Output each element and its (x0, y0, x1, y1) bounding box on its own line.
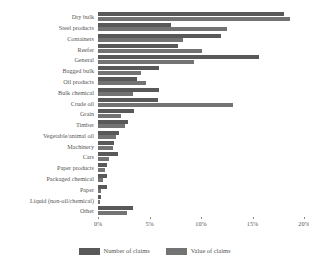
category-label: Oil products (0, 78, 94, 85)
bar-number-of-claims (98, 185, 107, 189)
bar-group (98, 34, 304, 45)
x-tick-label: 20% (298, 220, 309, 228)
category-label: General (0, 56, 94, 63)
x-tick-mark (304, 217, 305, 219)
legend-label: Number of claims (104, 247, 150, 255)
bar-value-of-claims (98, 81, 146, 85)
bar-group (98, 98, 304, 109)
bar-group (98, 120, 304, 131)
category-label: Liquid (non-oil/chemical) (0, 197, 94, 204)
bar-value-of-claims (98, 135, 116, 139)
bar-number-of-claims (98, 98, 158, 102)
bar-number-of-claims (98, 23, 171, 27)
bar-group (98, 66, 304, 77)
bar-number-of-claims (98, 66, 159, 70)
bar-number-of-claims (98, 88, 159, 92)
bar-number-of-claims (98, 174, 107, 178)
x-tick-mark (201, 217, 202, 219)
bar-group (98, 185, 304, 196)
bar-group (98, 109, 304, 120)
category-label: Reefer (0, 46, 94, 53)
bar-group (98, 77, 304, 88)
legend-item[interactable]: Number of claims (79, 247, 150, 255)
bar-value-of-claims (98, 38, 183, 42)
bar-value-of-claims (98, 146, 113, 150)
bar-value-of-claims (98, 49, 202, 53)
bar-group (98, 141, 304, 152)
legend-item[interactable]: Value of claims (166, 247, 231, 255)
bar-value-of-claims (98, 211, 127, 215)
x-tick-label: 5% (145, 220, 153, 228)
bar-group (98, 206, 304, 217)
category-label: Timber (0, 121, 94, 128)
category-label: Bulk chemical (0, 89, 94, 96)
bar-number-of-claims (98, 163, 107, 167)
category-label: Grain (0, 110, 94, 117)
x-tick-mark (98, 217, 99, 219)
bar-group (98, 12, 304, 23)
chart-legend: Number of claimsValue of claims (0, 243, 309, 259)
x-axis: 0%5%10%15%20% (98, 217, 304, 229)
bar-value-of-claims (98, 157, 109, 161)
bar-number-of-claims (98, 206, 133, 210)
bar-value-of-claims (98, 200, 100, 204)
bar-group (98, 131, 304, 142)
bar-group (98, 88, 304, 99)
claims-by-cargo-type-bar-chart: Dry bulkSteel productsContainersReeferGe… (0, 0, 309, 267)
bar-number-of-claims (98, 152, 118, 156)
bar-value-of-claims (98, 17, 290, 21)
bar-number-of-claims (98, 55, 259, 59)
bar-group (98, 174, 304, 185)
category-label: Dry bulk (0, 13, 94, 20)
legend-swatch-number (79, 248, 100, 255)
x-tick-label: 15% (247, 220, 258, 228)
x-tick-mark (150, 217, 151, 219)
bar-group (98, 195, 304, 206)
category-label: Machinery (0, 143, 94, 150)
bar-value-of-claims (98, 71, 141, 75)
x-tick-label: 10% (195, 220, 206, 228)
category-label: Bagged bulk (0, 67, 94, 74)
bar-group (98, 55, 304, 66)
category-label: Paper (0, 186, 94, 193)
bar-value-of-claims (98, 60, 194, 64)
bar-number-of-claims (98, 109, 134, 113)
bar-number-of-claims (98, 44, 178, 48)
category-label: Steel products (0, 24, 94, 31)
legend-label: Value of claims (191, 247, 231, 255)
bar-value-of-claims (98, 103, 233, 107)
bar-number-of-claims (98, 12, 284, 16)
bar-value-of-claims (98, 27, 227, 31)
category-label: Vegetable/animal oil (0, 132, 94, 139)
bar-group (98, 23, 304, 34)
bar-group (98, 152, 304, 163)
legend-swatch-value (166, 248, 187, 255)
bar-number-of-claims (98, 120, 128, 124)
bar-number-of-claims (98, 141, 114, 145)
bar-value-of-claims (98, 178, 103, 182)
category-label: Crude oil (0, 100, 94, 107)
category-label: Packaged chemical (0, 175, 94, 182)
bar-value-of-claims (98, 92, 133, 96)
x-tick-label: 0% (94, 220, 102, 228)
bar-value-of-claims (98, 189, 101, 193)
bar-value-of-claims (98, 124, 125, 128)
category-label: Paper products (0, 164, 94, 171)
category-axis-labels: Dry bulkSteel productsContainersReeferGe… (0, 12, 94, 217)
bar-number-of-claims (98, 77, 137, 81)
bar-group (98, 44, 304, 55)
category-label: Containers (0, 35, 94, 42)
bar-value-of-claims (98, 114, 121, 118)
bar-group (98, 163, 304, 174)
category-label: Other (0, 207, 94, 214)
bar-number-of-claims (98, 195, 101, 199)
x-tick-mark (253, 217, 254, 219)
category-label: Cars (0, 153, 94, 160)
plot-area (98, 12, 304, 217)
bar-number-of-claims (98, 131, 119, 135)
bar-number-of-claims (98, 34, 221, 38)
bar-value-of-claims (98, 168, 105, 172)
